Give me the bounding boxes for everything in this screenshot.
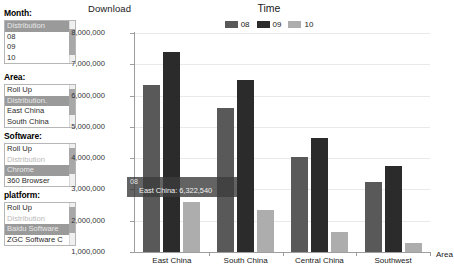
list-item[interactable]: Distribution: [5, 21, 75, 32]
x-axis-title: Area: [436, 250, 453, 259]
y-tick-label: 1,000,000: [71, 247, 105, 256]
filter-group-platform: platform:Roll UpDistributionBaidu Softwa…: [4, 190, 78, 246]
x-axis-label: Central China: [283, 256, 357, 265]
y-tick-label: 7,000,000: [71, 59, 105, 68]
bar-10-east-china[interactable]: [183, 202, 200, 252]
bar-09-central-china[interactable]: [311, 138, 328, 252]
list-item[interactable]: 360 Browser: [5, 176, 75, 187]
legend-entry-10[interactable]: 10: [288, 20, 313, 29]
bar-08-central-china[interactable]: [291, 157, 308, 252]
legend-label: 08: [241, 20, 250, 29]
listbox-month[interactable]: Distribution080910: [4, 20, 76, 64]
list-item[interactable]: Baidu Software: [5, 224, 75, 235]
legend-label: 10: [304, 20, 313, 29]
bar-09-south-china[interactable]: [237, 80, 254, 252]
chart-title: Time: [84, 2, 454, 14]
filter-title-software: Software:: [4, 131, 78, 142]
y-tick-label: 2,000,000: [71, 216, 105, 225]
x-axis-label: South China: [209, 256, 283, 265]
filter-group-month: Month:Distribution080910: [4, 8, 78, 64]
listbox-platform[interactable]: Roll UpDistributionBaidu SoftwareZGC Sof…: [4, 202, 76, 246]
bar-10-central-china[interactable]: [331, 232, 348, 252]
tooltip-value-label: East China: 6,322,540: [130, 186, 235, 195]
filter-group-software: Software:Roll UpDistributionChrome360 Br…: [4, 131, 78, 187]
y-tick-label: 5,000,000: [71, 122, 105, 131]
list-item[interactable]: ZGC Software C: [5, 235, 75, 246]
bar-10-southwest[interactable]: [405, 243, 422, 252]
list-item[interactable]: Roll Up: [5, 203, 75, 214]
list-item[interactable]: Roll Up: [5, 85, 75, 96]
bar-10-south-china[interactable]: [257, 210, 274, 252]
filter-group-area: Area:Roll UpDistribution.East ChinaSouth…: [4, 72, 78, 128]
bar-08-southwest[interactable]: [365, 182, 382, 252]
y-tick-label: 8,000,000: [71, 28, 105, 37]
plot-area: [135, 33, 430, 252]
y-tick-mark: [130, 158, 135, 159]
legend-entry-09[interactable]: 09: [257, 20, 282, 29]
listbox-scrollbar[interactable]: [69, 144, 75, 186]
y-tick-mark: [130, 33, 135, 34]
filter-title-month: Month:: [4, 8, 78, 19]
y-tick-label: 4,000,000: [71, 153, 105, 162]
list-item[interactable]: Distribution: [5, 214, 75, 225]
chart-tooltip: 08 East China: 6,322,540: [127, 177, 237, 197]
legend-swatch-icon: [288, 21, 301, 28]
legend-swatch-icon: [225, 21, 238, 28]
listbox-area[interactable]: Roll UpDistribution.East ChinaSouth Chin…: [4, 84, 76, 128]
list-item[interactable]: Distribution: [5, 155, 75, 166]
filter-title-area: Area:: [4, 72, 78, 83]
x-axis-label: East China: [135, 256, 209, 265]
listbox-software[interactable]: Roll UpDistributionChrome360 Browser: [4, 143, 76, 187]
list-item[interactable]: Chrome: [5, 165, 75, 176]
bar-09-east-china[interactable]: [163, 52, 180, 252]
list-item[interactable]: 08: [5, 32, 75, 43]
legend-label: 09: [273, 20, 282, 29]
x-axis-label: Southwest: [356, 256, 430, 265]
y-tick-mark: [130, 221, 135, 222]
filter-sidebar: Month:Distribution080910Area:Roll UpDist…: [0, 0, 84, 272]
x-tick-mark: [430, 252, 431, 256]
chart-panel: Download Time 080910 Area 08 East China:…: [84, 0, 454, 272]
gridline: [135, 33, 430, 34]
bar-08-east-china[interactable]: [143, 85, 160, 252]
list-item[interactable]: 09: [5, 42, 75, 53]
tooltip-series-label: 08: [130, 178, 235, 186]
legend-entry-08[interactable]: 08: [225, 20, 250, 29]
y-tick-label: 6,000,000: [71, 91, 105, 100]
list-item[interactable]: Roll Up: [5, 144, 75, 155]
list-item[interactable]: South China: [5, 117, 75, 128]
y-tick-mark: [130, 127, 135, 128]
y-tick-mark: [130, 96, 135, 97]
y-tick-mark: [130, 252, 135, 253]
list-item[interactable]: East China: [5, 106, 75, 117]
bar-09-southwest[interactable]: [385, 166, 402, 252]
chart-legend: 080910: [84, 20, 454, 29]
list-item[interactable]: Distribution.: [5, 96, 75, 107]
list-item[interactable]: 10: [5, 53, 75, 64]
filter-title-platform: platform:: [4, 190, 78, 201]
y-tick-label: 3,000,000: [71, 184, 105, 193]
legend-swatch-icon: [257, 21, 270, 28]
y-tick-mark: [130, 64, 135, 65]
